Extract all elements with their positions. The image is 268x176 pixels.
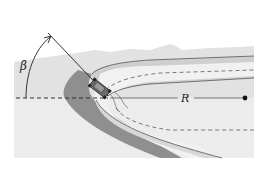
center-point (243, 96, 248, 101)
radius-label: R (180, 92, 189, 105)
angle-label: β (19, 59, 27, 73)
banked-curve-diagram: R β (0, 0, 268, 176)
diagram-canvas: R β (0, 0, 268, 176)
